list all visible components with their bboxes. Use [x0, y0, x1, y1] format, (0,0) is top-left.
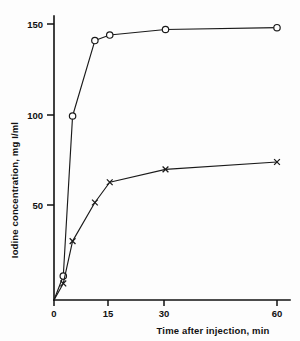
x-axis-ticks: [54, 300, 277, 306]
x-tick-label-0: 0: [51, 308, 56, 319]
y-tick-label-100: 100: [27, 110, 43, 121]
x-tick-label-15: 15: [103, 308, 114, 319]
y-axis-title: Iodine concentration, mg I/ml: [9, 122, 20, 258]
x-tick-label-60: 60: [272, 308, 283, 319]
y-tick-label-150: 150: [27, 19, 43, 30]
x-axis-title: Time after injection, min: [157, 325, 270, 336]
data-point-cross: [92, 200, 98, 206]
series-high-dose: [54, 24, 280, 300]
y-tick-label-50: 50: [32, 200, 43, 211]
series-line-low-dose: [54, 162, 277, 300]
line-chart: 150 100 50 0 15 30 60 Iodine concentrati…: [0, 0, 300, 341]
data-point-circle: [92, 37, 98, 43]
x-tick-label-30: 30: [159, 308, 170, 319]
series-layer: [54, 24, 280, 300]
data-point-circle: [69, 113, 75, 119]
data-point-circle: [162, 26, 168, 32]
data-point-circle: [274, 24, 280, 30]
data-point-circle: [107, 32, 113, 38]
series-low-dose: [54, 159, 280, 300]
y-axis-ticks: [47, 24, 54, 205]
chart-figure: 150 100 50 0 15 30 60 Iodine concentrati…: [0, 0, 300, 341]
